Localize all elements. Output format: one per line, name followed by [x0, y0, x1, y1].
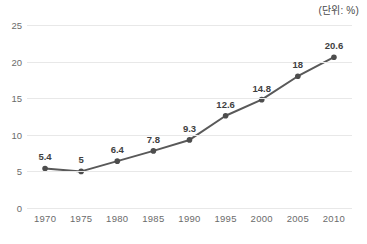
x-tick-label: 2005 [287, 213, 309, 224]
data-point-label: 9.3 [183, 123, 196, 134]
x-tick-label: 2010 [323, 213, 345, 224]
data-point-marker [295, 73, 301, 79]
data-point-marker [223, 113, 229, 119]
x-tick-label: 1980 [106, 213, 128, 224]
x-tick-label: 1985 [142, 213, 164, 224]
y-tick-label: 10 [0, 129, 22, 140]
data-point-label: 5 [79, 154, 84, 165]
y-axis [0, 25, 24, 208]
data-point-label: 7.8 [147, 134, 160, 145]
data-point-label: 5.4 [38, 151, 51, 162]
data-point-marker [114, 158, 120, 164]
data-point-label: 18 [293, 59, 304, 70]
data-point-label: 6.4 [111, 144, 124, 155]
data-point-label: 14.8 [252, 83, 271, 94]
data-point-marker [187, 137, 193, 143]
gridline [27, 208, 352, 209]
gridline [27, 171, 352, 172]
line-chart: (단위: %) 5.456.47.89.312.614.81820.6 1970… [0, 0, 367, 244]
x-tick-label: 1975 [70, 213, 92, 224]
y-tick-label: 0 [0, 203, 22, 214]
series-line [27, 25, 352, 208]
x-tick-label: 1995 [214, 213, 236, 224]
gridline [27, 98, 352, 99]
x-tick-label: 1970 [34, 213, 56, 224]
gridline [27, 62, 352, 63]
x-tick-label: 1990 [178, 213, 200, 224]
data-point-marker [151, 148, 157, 154]
plot-area: 5.456.47.89.312.614.81820.6 [27, 25, 352, 208]
data-point-label: 20.6 [325, 40, 344, 51]
x-axis: 197019751980198519901995200020052010 [27, 213, 352, 231]
y-tick-label: 15 [0, 93, 22, 104]
gridline [27, 25, 352, 26]
unit-annotation: (단위: %) [318, 2, 359, 17]
y-tick-label: 5 [0, 166, 22, 177]
series-polyline [45, 57, 334, 171]
gridline [27, 135, 352, 136]
data-point-marker [331, 54, 337, 60]
y-tick-label: 25 [0, 20, 22, 31]
x-tick-label: 2000 [251, 213, 273, 224]
y-tick-label: 20 [0, 56, 22, 67]
data-point-label: 12.6 [216, 99, 235, 110]
